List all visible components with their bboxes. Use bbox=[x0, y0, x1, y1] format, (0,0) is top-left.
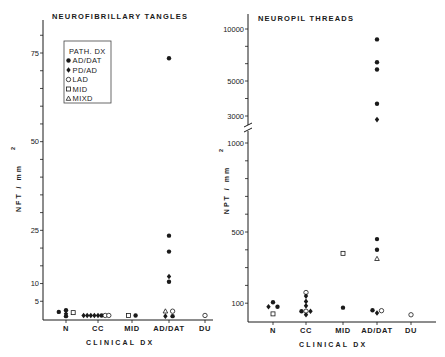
data-point bbox=[266, 304, 270, 310]
data-point bbox=[126, 313, 130, 317]
y-tick-label: 100 bbox=[231, 299, 244, 308]
data-point bbox=[375, 117, 379, 123]
points-right bbox=[266, 37, 413, 317]
data-point bbox=[409, 313, 413, 317]
data-point bbox=[64, 314, 68, 318]
y-axis-label-right: NPT / mm bbox=[223, 166, 230, 214]
data-point bbox=[308, 308, 312, 314]
legend-label: PD/AD bbox=[73, 66, 98, 75]
data-point bbox=[341, 305, 345, 309]
y-tick-label: 1000 bbox=[227, 139, 244, 148]
legend-marker-open-circle bbox=[66, 77, 70, 81]
data-point bbox=[375, 237, 379, 241]
y-tick-label: 3000 bbox=[227, 112, 244, 121]
y-axis-label-left: NFT / mm bbox=[15, 164, 22, 212]
x-ticks-right: NCCMIDAD/DATDU bbox=[270, 322, 417, 335]
x-tick-label: N bbox=[63, 324, 69, 333]
data-point bbox=[375, 37, 379, 41]
legend-title: PATH. DX bbox=[69, 47, 106, 56]
chart-title-right: NEUROPIL THREADS bbox=[258, 14, 354, 23]
chart-title-left: NEUROFIBRILLARY TANGLES bbox=[52, 12, 188, 21]
legend-label: MIXD bbox=[73, 94, 94, 103]
x-axis-label-left: CLINICAL DX bbox=[86, 339, 154, 346]
y-tick-label: 25 bbox=[31, 226, 39, 235]
data-point bbox=[271, 300, 275, 304]
data-point bbox=[299, 309, 303, 313]
data-point bbox=[167, 233, 171, 237]
x-ticks-left: NCCMIDAD/DATDU bbox=[63, 320, 211, 333]
y-axis-label-superscript-right: 2 bbox=[218, 149, 224, 152]
data-point bbox=[375, 310, 379, 316]
legend-label: MID bbox=[73, 85, 88, 94]
x-tick-label: CC bbox=[92, 324, 104, 333]
data-point bbox=[304, 303, 308, 309]
data-point bbox=[107, 313, 111, 317]
x-tick-label: DU bbox=[405, 326, 417, 335]
panel-neuropil-threads: NEUROPIL THREADS 10000500030001000500100… bbox=[218, 14, 436, 348]
data-point bbox=[375, 60, 379, 64]
x-tick-label: AD/DAT bbox=[361, 326, 392, 335]
y-tick-label: 5 bbox=[35, 297, 39, 306]
data-point bbox=[375, 248, 379, 252]
data-point bbox=[71, 311, 75, 315]
y-axis-label-superscript-left: 2 bbox=[10, 147, 16, 150]
x-tick-label: MID bbox=[335, 326, 351, 335]
legend: PATH. DX AD/DATPD/ADLADMIDMIXD bbox=[64, 41, 111, 103]
y-ticks-left: 755025105 bbox=[31, 35, 43, 306]
y-tick-label: 75 bbox=[31, 49, 39, 58]
x-tick-label: DU bbox=[199, 324, 211, 333]
data-point bbox=[271, 312, 275, 316]
x-tick-label: N bbox=[270, 326, 276, 335]
data-point bbox=[167, 274, 171, 280]
legend-marker-open-square bbox=[67, 87, 71, 91]
data-point bbox=[167, 249, 171, 253]
data-point bbox=[375, 67, 379, 71]
data-point bbox=[133, 313, 137, 317]
data-point bbox=[170, 309, 174, 313]
legend-label: AD/DAT bbox=[73, 56, 102, 65]
data-point bbox=[167, 280, 171, 284]
data-point bbox=[163, 309, 168, 313]
x-tick-label: AD/DAT bbox=[153, 324, 184, 333]
y-tick-label: 10 bbox=[31, 279, 39, 288]
legend-entry: AD/DAT bbox=[66, 56, 102, 65]
y-tick-label: 500 bbox=[231, 228, 244, 237]
data-point bbox=[341, 251, 345, 255]
panel-neurofibrillary-tangles: NEUROFIBRILLARY TANGLES 755025105 NCCMID… bbox=[10, 12, 213, 346]
x-tick-label: MID bbox=[124, 324, 140, 333]
figure: NEUROFIBRILLARY TANGLES 755025105 NCCMID… bbox=[0, 0, 445, 357]
legend-label: LAD bbox=[73, 75, 89, 84]
data-point bbox=[57, 310, 61, 314]
legend-marker-filled-circle bbox=[66, 58, 70, 62]
x-axis-label-right: CLINICAL DX bbox=[299, 341, 367, 348]
data-point bbox=[375, 256, 380, 260]
y-tick-label: 50 bbox=[31, 137, 39, 146]
data-point bbox=[275, 305, 279, 309]
data-point bbox=[167, 56, 171, 60]
data-point bbox=[370, 308, 374, 312]
data-point bbox=[379, 308, 383, 312]
y-tick-label: 10000 bbox=[223, 25, 244, 34]
data-point bbox=[170, 314, 174, 318]
x-tick-label: CC bbox=[300, 326, 312, 335]
data-point bbox=[203, 313, 207, 317]
data-point bbox=[375, 102, 379, 106]
y-tick-label: 5000 bbox=[227, 77, 244, 86]
data-point bbox=[163, 313, 167, 319]
